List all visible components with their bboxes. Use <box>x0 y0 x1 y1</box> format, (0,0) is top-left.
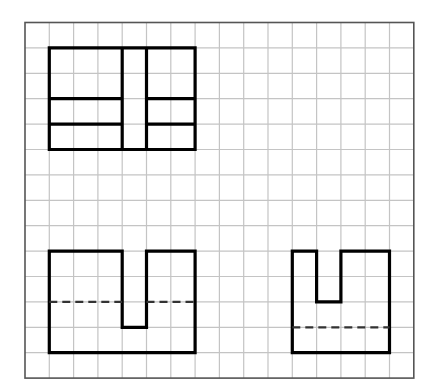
grid-diagram <box>0 0 434 390</box>
top-view <box>49 48 195 150</box>
grid-lines <box>25 23 414 379</box>
